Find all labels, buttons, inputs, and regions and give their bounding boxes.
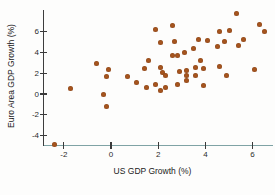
y-axis-tick-label: 6 bbox=[19, 27, 39, 36]
data-point bbox=[215, 44, 220, 49]
data-point bbox=[170, 23, 175, 28]
y-axis-tick-label: -4 bbox=[19, 131, 39, 140]
y-axis-label: Euro Area GDP Growth (%) bbox=[6, 24, 16, 128]
data-point bbox=[153, 82, 158, 87]
data-point bbox=[252, 67, 257, 72]
y-axis-tick-label: 4 bbox=[19, 48, 39, 57]
data-point bbox=[125, 74, 130, 79]
x-axis-label: US GDP Growth (%) bbox=[40, 166, 265, 176]
data-point bbox=[224, 73, 229, 78]
data-point bbox=[163, 73, 168, 78]
data-point bbox=[193, 73, 198, 78]
scatter-chart: Euro Area GDP Growth (%) -20246-4-20246 … bbox=[0, 0, 275, 195]
data-point bbox=[158, 40, 163, 45]
x-axis-tick-label: 0 bbox=[101, 150, 121, 159]
data-point bbox=[191, 46, 196, 51]
data-point bbox=[158, 88, 163, 93]
data-point bbox=[106, 67, 111, 72]
data-point bbox=[146, 58, 151, 63]
x-axis-tick bbox=[158, 142, 159, 149]
x-axis-tick bbox=[205, 142, 206, 149]
data-point bbox=[175, 53, 180, 58]
x-axis-tick-label: -2 bbox=[54, 150, 74, 159]
data-point bbox=[198, 58, 203, 63]
data-point bbox=[184, 68, 189, 73]
data-point bbox=[182, 50, 187, 55]
data-point bbox=[172, 39, 177, 44]
x-axis-tick-label: 6 bbox=[243, 150, 263, 159]
data-point bbox=[201, 66, 206, 71]
data-point bbox=[142, 66, 147, 71]
data-point bbox=[68, 86, 73, 91]
y-axis-tick bbox=[40, 73, 47, 74]
data-point bbox=[217, 29, 222, 34]
y-axis-tick bbox=[40, 52, 47, 53]
data-point bbox=[262, 29, 267, 34]
x-axis-tick bbox=[63, 142, 64, 149]
y-axis-tick-label: 0 bbox=[19, 90, 39, 99]
x-axis-tick bbox=[252, 142, 253, 149]
data-point bbox=[205, 38, 210, 43]
data-point bbox=[193, 65, 198, 70]
x-axis-tick-label: 2 bbox=[148, 150, 168, 159]
data-point bbox=[184, 78, 189, 83]
data-point bbox=[175, 82, 180, 87]
y-axis-tick-label: 2 bbox=[19, 69, 39, 78]
data-point bbox=[234, 11, 239, 16]
data-point bbox=[144, 85, 149, 90]
data-point bbox=[153, 27, 158, 32]
data-point bbox=[241, 37, 246, 42]
x-axis-tick-label: 4 bbox=[195, 150, 215, 159]
data-point bbox=[52, 142, 57, 147]
y-axis-tick-label: -2 bbox=[19, 110, 39, 119]
data-point bbox=[222, 39, 227, 44]
y-axis-tick bbox=[40, 93, 47, 94]
data-point bbox=[236, 43, 241, 48]
data-point bbox=[227, 28, 232, 33]
y-axis-tick bbox=[40, 135, 47, 136]
data-point bbox=[217, 64, 222, 69]
data-point bbox=[94, 61, 99, 66]
data-point bbox=[158, 65, 163, 70]
data-point bbox=[101, 92, 106, 97]
data-point bbox=[201, 83, 206, 88]
data-point bbox=[257, 22, 262, 27]
data-point bbox=[177, 69, 182, 74]
data-point bbox=[134, 80, 139, 85]
y-axis-tick bbox=[40, 114, 47, 115]
data-point bbox=[104, 104, 109, 109]
data-point bbox=[196, 37, 201, 42]
x-axis-tick bbox=[110, 142, 111, 149]
data-point bbox=[104, 74, 109, 79]
data-point bbox=[163, 85, 168, 90]
y-axis-tick bbox=[40, 31, 47, 32]
